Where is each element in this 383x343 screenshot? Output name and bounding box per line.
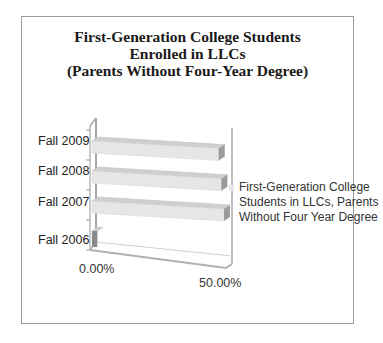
legend-line-1: First-Generation College: [229, 180, 383, 195]
category-label: Fall 2008: [38, 164, 89, 178]
bar-top-face: [92, 227, 103, 231]
bar-end-face: [92, 231, 97, 247]
category-label: Fall 2009: [38, 134, 89, 148]
category-label: Fall 2007: [38, 195, 89, 209]
category-label: Fall 2006: [38, 233, 89, 247]
legend-line-3: Without Four Year Degree: [229, 210, 383, 225]
legend: First-Generation College Students in LLC…: [229, 180, 383, 225]
x-tick-label-0: 0.00%: [79, 262, 114, 276]
x-tick-label-1: 50.00%: [199, 276, 241, 290]
legend-line-2: Students in LLCs, Parents: [229, 195, 383, 210]
